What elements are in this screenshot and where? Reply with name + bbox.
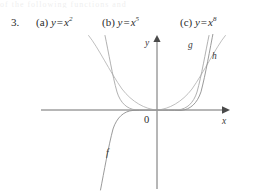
- y-axis-arrow-icon: [153, 35, 160, 42]
- choice-a-exponent: 2: [69, 15, 73, 23]
- origin-label: 0: [144, 114, 149, 125]
- graph-svg: y x 0 f g h: [0, 34, 262, 191]
- x-axis-arrow-icon: [222, 106, 230, 114]
- x-axis-label: x: [221, 116, 227, 126]
- curve-label-g: g: [188, 40, 193, 50]
- curve-label-f: f: [106, 148, 110, 158]
- choice-c-exponent: 8: [213, 15, 217, 23]
- y-axis-label: y: [144, 38, 150, 48]
- choice-c-operator: =: [200, 16, 208, 28]
- figure-page: of the following functions and 3. (a) y=…: [0, 0, 262, 191]
- problem-number: 3.: [11, 16, 19, 28]
- graph-figure: y x 0 f g h: [0, 34, 262, 191]
- choice-a-operator: =: [56, 16, 64, 28]
- choice-b-operator: =: [122, 16, 130, 28]
- choice-b: (b) y=x5: [102, 16, 139, 28]
- page-bleed-text: of the following functions and: [0, 0, 262, 8]
- choice-b-exponent: 5: [136, 15, 140, 23]
- problem-statement: 3. (a) y=x2 (b) y=x5 (c) y=x8: [0, 14, 262, 34]
- choice-a: (a) y=x2: [36, 16, 72, 28]
- choice-c-label: (c): [180, 16, 192, 28]
- choice-c: (c) y=x8: [180, 16, 216, 28]
- choice-a-label: (a): [36, 16, 48, 28]
- curve-label-h: h: [212, 51, 217, 61]
- choice-b-label: (b): [102, 16, 115, 28]
